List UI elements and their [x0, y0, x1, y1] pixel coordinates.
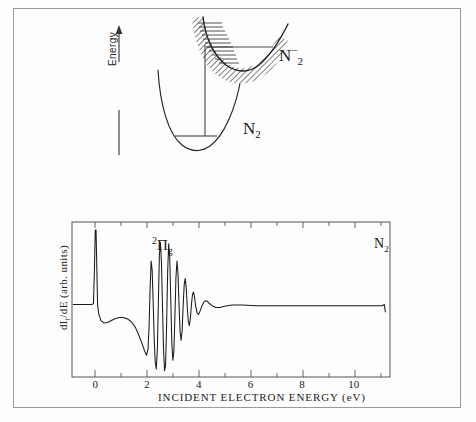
x-tick-label: 4 — [189, 378, 209, 390]
resonance-assignment-label: 2Πg — [152, 235, 173, 256]
x-axis-label: INCIDENT ELECTRON ENERGY (eV) — [158, 391, 366, 403]
spectrum-species-label: N2 — [374, 236, 389, 254]
x-tick-label: 8 — [292, 378, 312, 390]
n2-neutral-potential-curve — [158, 70, 241, 150]
figure-root: N−2 N2 Energy 2Πg N2 INCIDENT ELECTRON E… — [0, 0, 476, 422]
x-tick-label: 10 — [344, 378, 364, 390]
x-tick-label: 0 — [85, 378, 105, 390]
energy-axis-label: Energy — [107, 32, 118, 66]
x-tick-label: 2 — [137, 378, 157, 390]
y-axis-label: dIt/dE (arb. units) — [57, 160, 72, 245]
spectrum-trace — [73, 230, 385, 371]
spectrum-top-axis-ticks — [95, 222, 381, 228]
n2-anion-curve-label: N−2 — [279, 44, 303, 67]
n2-neutral-curve-label: N2 — [243, 119, 261, 140]
spectrum-plot-frame — [72, 222, 390, 377]
spectrum-bottom-axis-ticks — [95, 370, 381, 377]
x-tick-label: 6 — [240, 378, 260, 390]
